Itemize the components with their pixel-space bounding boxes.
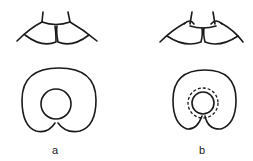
panel-b-bottom-shape: b bbox=[173, 70, 236, 156]
diagram-canvas: a b bbox=[0, 0, 253, 161]
panel-a-right-stub bbox=[68, 12, 70, 22]
panel-a-right-lobe bbox=[57, 26, 89, 44]
panel-a-top-sketch bbox=[17, 12, 97, 44]
panel-a-left-stub bbox=[42, 12, 43, 22]
panel-b-top-sketch bbox=[160, 12, 243, 44]
panel-a-inner-circle bbox=[41, 89, 71, 119]
panel-a-label: a bbox=[52, 144, 59, 156]
panel-a-bottom-shape: a bbox=[22, 68, 96, 156]
panel-b-top-arc bbox=[190, 26, 216, 28]
panel-a-top-arc bbox=[42, 22, 70, 25]
panel-b-label: b bbox=[199, 144, 205, 156]
panel-a-outer-contour bbox=[22, 68, 96, 132]
panel-b-right-loop bbox=[211, 21, 222, 24]
panel-a-left-lobe bbox=[25, 26, 56, 44]
panel-b-outer-contour bbox=[173, 70, 236, 129]
panel-b-inner-circle bbox=[192, 92, 214, 114]
